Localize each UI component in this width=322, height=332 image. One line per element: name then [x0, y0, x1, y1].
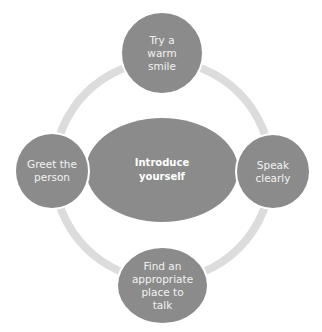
node-line: smile [147, 60, 176, 73]
node-greet-the-person: Greet the person [14, 132, 90, 210]
node-text: Try a warm smile [147, 34, 176, 73]
center-node-text: Introduce yourself [135, 156, 189, 184]
node-text: Find an appropriate place to talk [132, 260, 193, 312]
node-line: talk [132, 299, 193, 312]
node-line: Try a [147, 34, 176, 47]
node-line: appropriate [132, 273, 193, 286]
node-text: Speak clearly [255, 159, 290, 185]
node-line: Speak [255, 159, 290, 172]
cycle-diagram: Introduce yourself Try a warm smile Spea… [0, 0, 322, 332]
center-node-introduce-yourself: Introduce yourself [86, 118, 238, 222]
node-text: Greet the person [27, 158, 77, 184]
node-line: clearly [255, 172, 290, 185]
node-line: place to [132, 286, 193, 299]
center-node-line-1: Introduce [135, 156, 189, 170]
node-line: warm [147, 47, 176, 60]
node-line: Find an [132, 260, 193, 273]
node-line: person [27, 171, 77, 184]
node-line: Greet the [27, 158, 77, 171]
center-node-line-2: yourself [135, 170, 189, 184]
node-try-a-warm-smile: Try a warm smile [120, 11, 204, 95]
node-speak-clearly: Speak clearly [235, 133, 311, 210]
node-find-appropriate-place: Find an appropriate place to talk [116, 246, 209, 325]
